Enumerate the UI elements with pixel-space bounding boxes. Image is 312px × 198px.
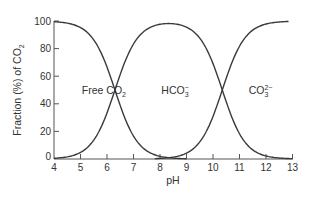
speciation-chart: 020406080100 45678910111213 Free CO2HCO3…: [0, 0, 312, 198]
y-tick-label: 0: [45, 151, 51, 162]
x-tick-label: 4: [51, 162, 57, 173]
y-tick-label: 60: [40, 71, 52, 82]
y-tick-label: 80: [40, 43, 52, 54]
x-tick-label: 10: [207, 162, 219, 173]
x-tick-label: 12: [260, 162, 272, 173]
x-tick-label: 6: [104, 162, 110, 173]
y-tick-label: 20: [40, 126, 52, 137]
y-tick-label: 40: [40, 98, 52, 109]
x-tick-label: 7: [131, 162, 137, 173]
x-tick-label: 5: [78, 162, 84, 173]
y-axis-ticks: 020406080100: [34, 16, 59, 163]
label-carbonate: CO32−: [249, 84, 273, 98]
x-tick-label: 13: [287, 162, 299, 173]
x-tick-label: 8: [157, 162, 163, 173]
y-axis-title: Fraction (%) of CO2: [11, 44, 25, 136]
species-labels: Free CO2HCO3−CO32−: [82, 84, 273, 98]
y-tick-label: 100: [34, 16, 51, 27]
x-axis-title: pH: [166, 174, 179, 186]
x-tick-label: 9: [184, 162, 190, 173]
label-bicarbonate: HCO3−: [161, 84, 188, 98]
x-tick-label: 11: [234, 162, 245, 173]
label-free-co2: Free CO2: [82, 84, 126, 98]
